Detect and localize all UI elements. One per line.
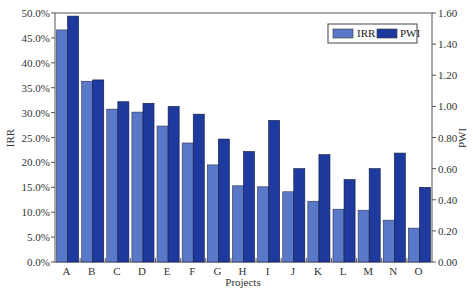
irr-pwi-bar-chart: 0.0%5.0%10.0%15.0%20.0%25.0%30.0%35.0%40… — [0, 0, 473, 290]
bar-pwi-M — [369, 169, 380, 262]
left-tick-label: 25.0% — [22, 132, 50, 144]
x-tick-label: D — [138, 265, 146, 277]
legend-label-pwi: PWI — [400, 27, 421, 39]
x-tick-label: L — [340, 265, 347, 277]
legend-swatch-pwi — [377, 29, 397, 38]
right-tick-label: 0.60 — [438, 163, 458, 175]
x-tick-label: J — [291, 265, 296, 277]
x-tick-label: O — [414, 265, 422, 277]
bar-irr-G — [207, 165, 218, 262]
bar-pwi-O — [419, 187, 430, 262]
bar-irr-J — [283, 192, 294, 262]
left-tick-label: 35.0% — [22, 82, 50, 94]
bar-pwi-C — [118, 102, 129, 262]
bar-pwi-D — [143, 103, 154, 262]
bar-irr-E — [157, 126, 168, 262]
bar-irr-A — [57, 30, 68, 262]
bar-irr-C — [107, 109, 118, 262]
left-tick-label: 40.0% — [22, 57, 50, 69]
left-tick-label: 45.0% — [22, 32, 50, 44]
left-tick-label: 50.0% — [22, 7, 50, 19]
left-tick-label: 0.0% — [27, 256, 50, 268]
x-tick-label: G — [213, 265, 221, 277]
right-tick-label: 1.20 — [438, 69, 458, 81]
left-y-axis: 0.0%5.0%10.0%15.0%20.0%25.0%30.0%35.0%40… — [22, 7, 55, 268]
bar-pwi-H — [244, 152, 255, 262]
x-tick-label: E — [164, 265, 171, 277]
right-tick-label: 0.00 — [438, 256, 458, 268]
bar-pwi-N — [394, 153, 405, 262]
left-tick-label: 20.0% — [22, 156, 50, 168]
x-tick-label: K — [314, 265, 322, 277]
bar-pwi-L — [344, 180, 355, 262]
x-tick-label: F — [189, 265, 195, 277]
bar-pwi-K — [319, 155, 330, 262]
x-tick-label: C — [113, 265, 120, 277]
bar-pwi-I — [269, 120, 280, 262]
bar-irr-H — [232, 186, 243, 262]
bar-irr-K — [308, 201, 319, 262]
right-tick-label: 1.60 — [438, 7, 458, 19]
bar-pwi-F — [193, 114, 204, 262]
left-y-axis-title: IRR — [4, 128, 16, 147]
right-tick-label: 0.20 — [438, 225, 458, 237]
left-tick-label: 15.0% — [22, 181, 50, 193]
bar-pwi-B — [93, 80, 104, 262]
right-tick-label: 1.00 — [438, 100, 458, 112]
right-tick-label: 0.40 — [438, 194, 458, 206]
bar-irr-L — [333, 209, 344, 262]
x-tick-label: A — [63, 265, 71, 277]
left-tick-label: 10.0% — [22, 206, 50, 218]
left-tick-label: 30.0% — [22, 107, 50, 119]
x-tick-label: I — [266, 265, 270, 277]
bar-irr-O — [408, 228, 419, 262]
x-tick-label: B — [88, 265, 95, 277]
bar-pwi-E — [168, 106, 179, 262]
bar-irr-M — [358, 210, 369, 262]
legend-label-irr: IRR — [357, 27, 376, 39]
x-tick-label: M — [363, 265, 373, 277]
bar-pwi-A — [68, 16, 79, 262]
x-axis-title: Projects — [225, 276, 260, 288]
bar-pwi-J — [294, 169, 305, 262]
x-tick-label: N — [389, 265, 397, 277]
right-y-axis-title: PWI — [456, 128, 468, 149]
legend-swatch-irr — [333, 29, 353, 38]
bar-irr-N — [383, 220, 394, 262]
legend: IRR PWI — [328, 24, 421, 43]
left-tick-label: 5.0% — [27, 231, 50, 243]
bar-irr-I — [258, 187, 269, 262]
bar-pwi-G — [218, 139, 229, 262]
right-tick-label: 0.80 — [438, 132, 458, 144]
right-tick-label: 1.40 — [438, 38, 458, 50]
bar-irr-F — [182, 143, 193, 262]
bar-irr-D — [132, 112, 143, 262]
bar-irr-B — [82, 81, 93, 262]
right-y-axis: 0.000.200.400.600.801.001.201.401.60 — [432, 7, 458, 268]
